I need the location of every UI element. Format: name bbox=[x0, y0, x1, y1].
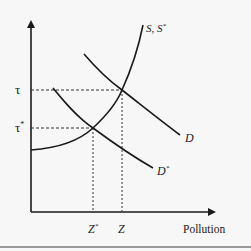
bottom-divider bbox=[0, 246, 251, 248]
supply-curve bbox=[31, 25, 143, 150]
demand-curve-label: D bbox=[184, 131, 194, 145]
x-axis-title: Pollution bbox=[183, 223, 225, 235]
supply-curve-label: S, S* bbox=[146, 22, 167, 34]
tau-star-label: τ* bbox=[15, 120, 24, 135]
tau-label: τ bbox=[15, 82, 20, 97]
z-star-label: Z* bbox=[88, 222, 99, 236]
supply-demand-diagram: τ τ* Z* Z S, S* D D* Pollution bbox=[0, 0, 251, 251]
demand-star-curve-label: D* bbox=[156, 164, 170, 178]
z-label: Z bbox=[118, 222, 125, 236]
